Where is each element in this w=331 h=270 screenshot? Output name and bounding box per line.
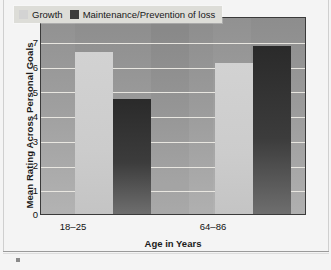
page-frame-left-rule [3, 0, 4, 252]
page-bottom-rule-secondary [3, 253, 329, 254]
x-tick-64-86: 64–86 [168, 221, 258, 232]
maintenance-swatch-icon [70, 10, 79, 19]
y-tick-2: 2 [20, 161, 38, 171]
chart-figure: Mean Rating Across Personal Goals 8 7 6 … [0, 0, 331, 270]
legend-label-maintenance: Maintenance/Prevention of loss [83, 9, 216, 20]
bar-growth-18-25 [75, 52, 113, 214]
bar-maintenance-18-25 [113, 99, 151, 214]
x-axis-title: Age in Years [40, 238, 306, 249]
bar-maintenance-64-86 [253, 46, 291, 214]
chart-legend: Growth Maintenance/Prevention of loss [14, 6, 222, 23]
y-tick-6: 6 [20, 63, 38, 73]
y-tick-0: 0 [20, 210, 38, 220]
growth-swatch-icon [19, 10, 28, 19]
y-tick-4: 4 [20, 112, 38, 122]
bar-growth-64-86 [215, 63, 253, 214]
gridline-7 [41, 43, 305, 44]
x-tick-18-25: 18–25 [28, 221, 118, 232]
legend-item-growth: Growth [19, 9, 63, 20]
y-tick-7: 7 [20, 38, 38, 48]
page-frame-right-rule [328, 0, 329, 252]
y-tick-5: 5 [20, 88, 38, 98]
legend-item-maintenance: Maintenance/Prevention of loss [70, 9, 216, 20]
page-bottom-rule [3, 251, 329, 252]
legend-label-growth: Growth [32, 9, 63, 20]
plot-area [40, 17, 306, 215]
y-tick-1: 1 [20, 186, 38, 196]
y-tick-3: 3 [20, 137, 38, 147]
